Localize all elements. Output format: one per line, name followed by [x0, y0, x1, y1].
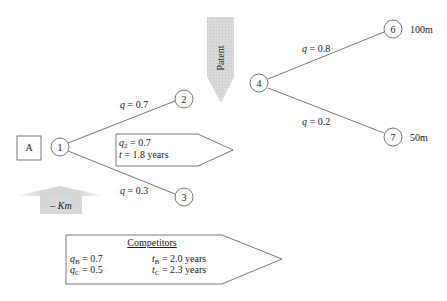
svg-text:2: 2: [182, 94, 187, 105]
svg-text:3: 3: [182, 192, 187, 203]
svg-text:A: A: [25, 142, 33, 153]
patent-arrow: Patent: [207, 17, 234, 103]
edge-4-6: [268, 32, 384, 79]
edge-label-1-3: q = 0.3: [120, 185, 148, 196]
stage-t: t = 1.8 years: [119, 149, 169, 160]
edge-label-4-7: q = 0.2: [302, 116, 330, 127]
stage-box: q2 = 0.7 t = 1.8 years: [116, 134, 233, 166]
node-a: A: [17, 136, 41, 160]
edge-label-4-6: q = 0.8: [302, 43, 330, 54]
cost-arrow: – Km: [15, 186, 105, 214]
svg-text:1: 1: [58, 142, 63, 153]
svg-text:6: 6: [391, 24, 396, 35]
competitors-box: Competitors qB = 0.7 qC = 0.5 tB = 2.0 y…: [66, 235, 282, 284]
node-1: 1: [51, 138, 69, 156]
competitors-title: Competitors: [127, 237, 177, 248]
node-7: 7 50m: [384, 128, 428, 146]
decision-tree-diagram: Patent – Km q = 0.7 q = 0.3 q = 0.8 q = …: [0, 0, 447, 301]
node-6: 6 100m: [384, 20, 433, 38]
node-3: 3: [175, 188, 193, 206]
node-4: 4: [250, 74, 268, 92]
node-2: 2: [175, 90, 193, 108]
patent-label: Patent: [215, 45, 226, 70]
cost-label: – Km: [49, 200, 71, 211]
outcome-7: 50m: [410, 132, 428, 143]
svg-text:7: 7: [391, 132, 396, 143]
svg-text:4: 4: [257, 78, 262, 89]
edge-label-1-2: q = 0.7: [120, 99, 148, 110]
outcome-6: 100m: [410, 24, 433, 35]
